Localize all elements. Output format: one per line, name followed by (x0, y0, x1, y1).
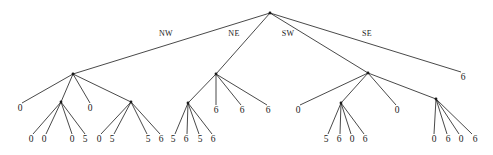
tree-leaf-label: 6 (184, 134, 189, 144)
tree-edge (114, 102, 131, 134)
tree-edge (61, 102, 72, 134)
tree-nodes (60, 12, 438, 105)
tree-leaf-label: 0 (29, 134, 34, 144)
tree-leaf-label: 0 (18, 103, 23, 113)
tree-edge-label: SE (362, 29, 372, 38)
tree-leaf-label: 6 (473, 134, 478, 144)
tree-edge-labels: NWNESWSE (159, 29, 372, 38)
tree-leaf-label: 5 (110, 134, 115, 144)
quadtree-diagram: 0000500556565666605606060606 NWNESWSE (0, 0, 493, 155)
tree-internal-node (435, 98, 438, 101)
tree-edge (131, 102, 160, 134)
tree-edge (61, 102, 85, 134)
tree-leaf-label: 0 (97, 134, 102, 144)
tree-leaf-label: 6 (159, 134, 164, 144)
tree-edge (22, 74, 73, 103)
tree-edge (341, 73, 368, 103)
tree-edge (270, 13, 368, 73)
tree-canvas: 0000500556565666605606060606 NWNESWSE (0, 0, 493, 155)
tree-leaf-label: 5 (83, 134, 88, 144)
tree-edge (73, 74, 131, 102)
tree-leaf-label: 0 (459, 134, 464, 144)
tree-leaf-label: 5 (198, 134, 203, 144)
tree-edge (73, 13, 270, 74)
tree-edge (300, 73, 368, 105)
tree-edges (22, 13, 472, 134)
tree-leaf-label: 0 (70, 134, 75, 144)
tree-edge (341, 103, 351, 134)
tree-edge (187, 103, 188, 134)
tree-leaf-label: 5 (146, 134, 151, 144)
tree-edge (216, 74, 241, 105)
tree-edge (188, 103, 199, 134)
tree-leaf-label: 0 (350, 134, 355, 144)
tree-edge (188, 103, 212, 134)
tree-internal-node (340, 102, 343, 105)
tree-leaf-label: 0 (395, 105, 400, 115)
tree-internal-node (367, 72, 370, 75)
tree-edge (46, 102, 61, 134)
tree-edge (101, 102, 131, 134)
tree-edge-label: NE (228, 29, 239, 38)
tree-leaf-label: 6 (266, 105, 271, 115)
tree-edge (33, 102, 61, 134)
tree-leaf-label: 6 (337, 134, 342, 144)
tree-edge (368, 73, 396, 105)
tree-edge (434, 99, 436, 134)
tree-edge (216, 74, 267, 105)
tree-internal-node (72, 73, 75, 76)
tree-internal-node (130, 101, 133, 104)
tree-leaf-labels: 0000500556565666605606060606 (18, 72, 478, 144)
tree-edge (328, 103, 341, 134)
tree-leaf-label: 6 (363, 134, 368, 144)
tree-leaf-label: 6 (446, 134, 451, 144)
tree-edge (131, 102, 147, 134)
tree-leaf-label: 5 (324, 134, 329, 144)
tree-edge (340, 103, 341, 134)
tree-internal-node (187, 102, 190, 105)
tree-edge (270, 13, 461, 72)
tree-leaf-label: 6 (211, 134, 216, 144)
tree-edge-label: SW (282, 29, 295, 38)
tree-leaf-label: 0 (88, 103, 93, 113)
tree-leaf-label: 6 (240, 105, 245, 115)
tree-edge (61, 74, 73, 102)
tree-edge-label: NW (159, 29, 173, 38)
tree-edge (216, 13, 270, 74)
tree-internal-node (60, 101, 63, 104)
tree-edge (436, 99, 459, 134)
tree-edge (188, 74, 216, 103)
tree-edge (368, 73, 436, 99)
tree-internal-node (215, 73, 218, 76)
tree-leaf-label: 6 (214, 105, 219, 115)
tree-leaf-label: 0 (296, 105, 301, 115)
tree-root-node (269, 12, 272, 15)
tree-leaf-label: 5 (171, 134, 176, 144)
tree-leaf-label: 0 (42, 134, 47, 144)
tree-edge (175, 103, 188, 134)
tree-leaf-label: 0 (432, 134, 437, 144)
tree-edge (341, 103, 364, 134)
tree-leaf-label: 6 (461, 72, 466, 82)
